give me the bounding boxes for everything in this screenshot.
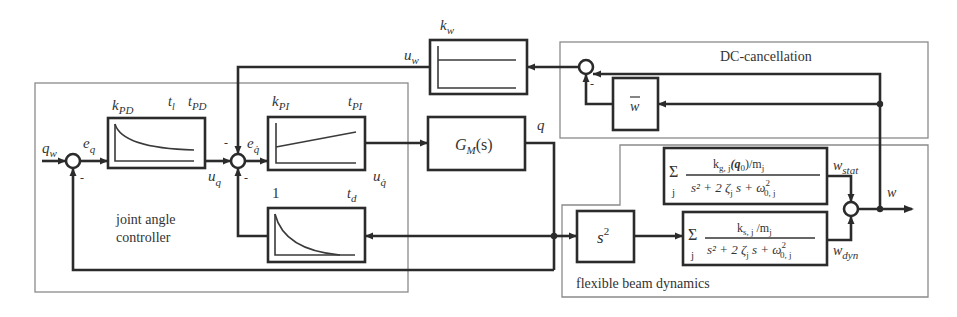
minus-sign: -: [244, 171, 248, 185]
signal-eq-label: eq: [83, 135, 96, 155]
joint-controller-label-1: joint angle: [115, 212, 176, 227]
sum-junction-eqdot: [231, 154, 245, 168]
arrow-icon: [904, 205, 914, 213]
sum-junction-eq: [66, 154, 80, 168]
wire-q: [525, 143, 554, 270]
signal-eqdot-label: eq̇: [247, 135, 260, 155]
dynamic-beam-tf-block: [683, 212, 827, 265]
td-block: [268, 208, 365, 262]
minus-sign: -: [80, 171, 84, 185]
wire-wstat: [827, 176, 851, 202]
sum-junction-dc: [579, 60, 593, 74]
kpi-gain-label: kPI: [272, 93, 290, 112]
kpi-block: [268, 117, 365, 170]
arrow-icon: [593, 71, 601, 78]
signal-uw-label: uw: [404, 47, 420, 66]
w-bar-label: w: [630, 99, 640, 114]
signal-wdyn-label: wdyn: [833, 243, 859, 261]
dyn-sum-symbol: Σ: [688, 226, 697, 243]
signal-q-label: q: [537, 117, 545, 133]
minus-sign: -: [224, 136, 228, 150]
dyn-numerator: ks, j /mj: [737, 221, 772, 237]
signal-uqdot-label: uq̇: [373, 168, 387, 188]
kw-block: [430, 40, 527, 94]
joint-controller-label-2: controller: [116, 230, 171, 245]
dyn-sum-index: j: [690, 249, 694, 261]
signal-wstat-label: wstat: [833, 158, 859, 176]
kpd-time-label-l: tl: [168, 94, 175, 112]
beam-dynamics-label: flexible beam dynamics: [576, 276, 710, 291]
sum-junction-w: [844, 202, 858, 216]
kpi-time-label: tPI: [348, 94, 364, 112]
signal-uq-label: uq: [208, 168, 222, 188]
td-time-label: td: [347, 186, 357, 204]
kpd-time-label-pd: tPD: [188, 94, 207, 112]
junction-dot-q: [551, 233, 557, 239]
block-diagram: joint angle controller DC-cancellation f…: [0, 0, 957, 317]
signal-w-label: w: [887, 185, 897, 200]
dc-cancellation-label: DC-cancellation: [720, 49, 812, 64]
minus-sign: -: [590, 77, 594, 91]
wire-td-feedback: [238, 168, 268, 236]
wire-wdyn: [827, 216, 851, 240]
junction-dot-w: [877, 206, 883, 212]
kpd-block: [108, 118, 205, 168]
junction-dot-w-dc: [877, 101, 883, 107]
td-gain-label: 1: [272, 185, 280, 201]
signal-qw-label: qw: [42, 140, 58, 159]
kpd-gain-label: kPD: [112, 97, 133, 116]
stat-sum-symbol: Σ: [669, 163, 678, 180]
kw-gain-label: kw: [440, 17, 455, 36]
stat-sum-index: j: [671, 186, 675, 198]
